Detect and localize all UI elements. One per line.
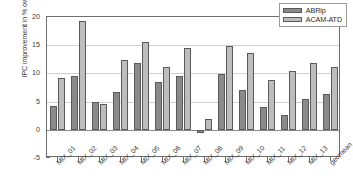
y-tick-label: -5: [0, 153, 40, 162]
bar-mix_13-acam-atd: [310, 63, 318, 130]
bar-mix_01-acam-atd: [58, 78, 66, 130]
bar-mix_13-abrip: [302, 99, 310, 129]
bar-geomean-acam-atd: [331, 67, 339, 130]
bar-mix_12-abrip: [281, 115, 289, 130]
bar-mix_09-abrip: [218, 74, 226, 130]
bar-mix_04-abrip: [113, 92, 121, 130]
bar-mix_10-acam-atd: [247, 53, 255, 130]
legend-label-acam-atd: ACAM-ATD: [306, 15, 342, 24]
bar-mix_09-acam-atd: [226, 46, 234, 130]
bar-series-container: [47, 17, 339, 156]
y-tick-label: 0: [0, 124, 40, 133]
bar-mix_05-abrip: [134, 63, 142, 130]
bar-mix_10-abrip: [239, 90, 247, 129]
legend-swatch-acam-atd: [283, 17, 302, 22]
y-tick-mark: [46, 157, 50, 158]
bar-mix_07-acam-atd: [184, 48, 192, 130]
plot-area: [46, 16, 340, 157]
bar-mix_06-acam-atd: [163, 67, 171, 130]
bar-mix_06-abrip: [155, 82, 163, 130]
y-tick-label: 5: [0, 96, 40, 105]
bar-geomean-abrip: [323, 94, 331, 130]
bar-mix_08-acam-atd: [205, 119, 213, 130]
y-tick-label: 15: [0, 40, 40, 49]
bar-mix_01-abrip: [50, 106, 58, 130]
y-tick-label: 20: [0, 12, 40, 21]
chart-legend: ABRip ACAM-ATD: [279, 3, 347, 27]
legend-item-series-1: ACAM-ATD: [283, 15, 342, 24]
bar-mix_05-acam-atd: [142, 42, 150, 130]
legend-item-series-0: ABRip: [283, 6, 342, 15]
bar-mix_03-acam-atd: [100, 104, 108, 130]
bar-mix_12-acam-atd: [289, 71, 297, 130]
bar-mix_11-abrip: [260, 107, 268, 130]
bar-mix_04-acam-atd: [121, 60, 129, 129]
bar-mix_11-acam-atd: [268, 80, 276, 130]
bar-mix_07-abrip: [176, 76, 184, 130]
bar-mix_02-abrip: [71, 76, 79, 130]
bar-mix_03-abrip: [92, 102, 100, 130]
bar-mix_02-acam-atd: [79, 21, 87, 130]
legend-label-abrip: ABRip: [306, 6, 326, 15]
y-tick-label: 10: [0, 68, 40, 77]
bar-mix_08-abrip: [197, 130, 205, 133]
legend-swatch-abrip: [283, 8, 302, 13]
